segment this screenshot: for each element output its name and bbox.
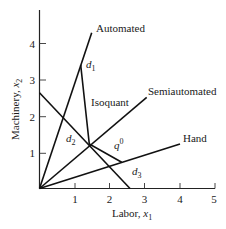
label-q0: q0 [114,137,124,151]
isoquant-diagram: 1 2 3 4 5 1 2 3 4 Labor, x1 Machinery, x… [0,0,226,229]
label-d3: d3 [132,165,142,180]
label-semiautomated: Semiautomated [148,85,217,97]
y-tick-label: 4 [30,38,36,50]
x-tick-label: 3 [142,193,148,205]
x-tick-label: 4 [177,193,183,205]
x-tick-label: 5 [211,193,217,205]
label-hand: Hand [183,132,207,144]
label-automated: Automated [96,22,145,34]
y-ticks: 1 2 3 4 [30,38,47,160]
x-ticks: 1 2 3 4 5 [72,183,217,205]
label-isoquant: Isoquant [91,96,129,108]
label-d2: d2 [66,132,76,147]
label-d1: d1 [86,58,96,73]
x-axis-title: Labor, x1 [112,207,152,222]
y-tick-label: 3 [30,74,36,86]
y-axis-title: Machinery, x2 [9,79,24,140]
process-rays [40,33,181,189]
y-tick-label: 2 [30,111,36,123]
x-tick-label: 2 [107,193,113,205]
ray-automated [40,33,92,189]
y-tick-label: 1 [30,147,36,159]
x-tick-label: 1 [72,193,78,205]
